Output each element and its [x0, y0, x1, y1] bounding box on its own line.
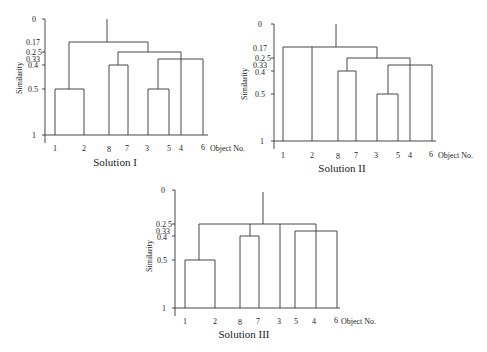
leaf-label: 5: [167, 144, 171, 153]
y-tick: 0: [161, 186, 165, 195]
leaf-label: 4: [179, 144, 183, 153]
y-tick: 0.17: [26, 38, 40, 47]
leaf-label: 3: [145, 144, 149, 153]
y-axis-label: Similarity: [145, 240, 154, 272]
y-tick: 0.5: [255, 90, 265, 99]
y-tick: 1: [162, 304, 166, 313]
leaf-label: 3: [374, 151, 378, 160]
y-axis-label: Similarity: [240, 68, 249, 100]
panel-solution-3: Similarity 0 0.2 5 0.33 0.4 0.5 1 1 2 8 …: [145, 186, 376, 340]
leaf-label: 1: [53, 144, 57, 153]
leaf-label: 8: [336, 152, 340, 161]
leaf-label: 2: [310, 151, 314, 160]
leaf-label: 7: [256, 317, 260, 326]
y-tick: 0.5: [28, 85, 38, 94]
y-tick: 0: [258, 20, 262, 29]
y-tick: 0.4: [28, 61, 38, 70]
y-tick: 0.5: [157, 256, 167, 265]
leaf-label: 5: [396, 151, 400, 160]
leaf-label: 2: [82, 144, 86, 153]
leaf-label: 4: [312, 317, 316, 326]
x-axis-label: Object No.: [210, 144, 245, 153]
panel-title: Solution III: [218, 328, 269, 340]
leaf-label: 1: [281, 151, 285, 160]
panel-solution-1: Similarity 0 0.17 0.2 5 0.33 0.4 0.5 1 1…: [15, 15, 245, 168]
leaf-label: 6: [429, 150, 433, 159]
leaf-label: 1: [183, 317, 187, 326]
leaf-label: 8: [107, 145, 111, 154]
leaf-label: 4: [408, 151, 412, 160]
y-tick: 0.4: [255, 68, 265, 77]
leaf-label: 6: [201, 143, 205, 152]
y-tick: 0: [32, 15, 36, 24]
dendrogram-figure: Similarity 0 0.17 0.2 5 0.33 0.4 0.5 1 1…: [0, 0, 487, 352]
leaf-label: 3: [277, 317, 281, 326]
leaf-label: 2: [213, 317, 217, 326]
leaf-label: 7: [125, 144, 129, 153]
panel-title: Solution II: [318, 162, 366, 174]
leaf-label: 7: [354, 151, 358, 160]
panel-title: Solution I: [93, 156, 137, 168]
leaf-label: 5: [294, 317, 298, 326]
x-axis-label: Object No.: [341, 317, 376, 326]
y-tick: 1: [32, 131, 36, 140]
y-axis-label: Similarity: [15, 62, 24, 94]
y-tick: 0.17: [253, 44, 267, 53]
y-tick: 1: [260, 137, 264, 146]
leaf-label: 8: [238, 318, 242, 327]
panel-solution-2: Similarity 0 0.17 0.2 5 0.33 0.4 0.5 1 1…: [240, 20, 473, 174]
x-axis-label: Object No.: [438, 151, 473, 160]
y-tick: 0.4: [157, 233, 167, 242]
leaf-label: 6: [334, 316, 338, 325]
